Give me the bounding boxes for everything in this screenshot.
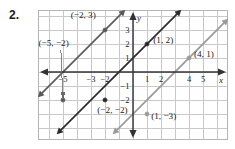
label-neg2-3: (−2, 3): [71, 10, 96, 20]
svg-text:3: 3: [125, 25, 129, 35]
problem-number: 2.: [9, 8, 19, 22]
svg-text:5: 5: [201, 74, 205, 84]
label-1-neg3: (1, −3): [151, 111, 176, 121]
label-neg2-neg2: (−2, −2): [97, 105, 127, 115]
svg-text:x: x: [218, 75, 223, 85]
svg-text:−2: −2: [120, 95, 129, 105]
svg-text:−5: −5: [58, 74, 67, 84]
label-1-2: (1, 2): [153, 35, 173, 45]
svg-text:2: 2: [125, 39, 129, 49]
svg-text:1: 1: [125, 53, 129, 63]
coordinate-graph: yx −5−3−21245321−1−2 (−2, 3)(−5, −2)(1, …: [38, 10, 228, 140]
svg-text:−1: −1: [120, 81, 129, 91]
svg-text:−2: −2: [100, 74, 109, 84]
svg-text:y: y: [136, 13, 141, 23]
svg-text:2: 2: [159, 74, 163, 84]
graph-svg: yx −5−3−21245321−1−2 (−2, 3)(−5, −2)(1, …: [38, 10, 228, 140]
label-neg5-neg2: (−5, −2): [39, 38, 69, 48]
svg-text:1: 1: [145, 74, 149, 84]
svg-text:−3: −3: [86, 74, 95, 84]
label-4-1: (4, 1): [194, 49, 214, 59]
worksheet-figure: 2. yx −5−3−21245321−1−2 (−2, 3)(−5, −2)(…: [0, 0, 235, 149]
